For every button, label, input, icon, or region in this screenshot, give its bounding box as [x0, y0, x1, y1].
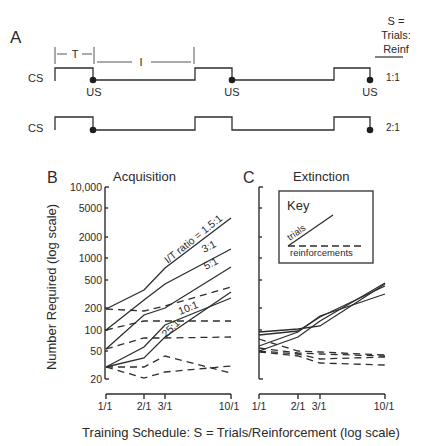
us-dot	[367, 127, 374, 134]
x-axis-title: Training Schedule: S = Trials/Reinforcem…	[82, 425, 400, 440]
y-tick-label: 500	[84, 274, 102, 286]
line-label-10: 10:1	[176, 298, 200, 317]
x-axis-acquisition: 1/1 2/1 3/1 10/1	[98, 394, 240, 412]
key-legend: Key trials reinforcements	[279, 191, 373, 263]
us-label: US	[224, 86, 239, 98]
extinction-reinforcement-lines	[259, 339, 385, 365]
x-tick-label: 2/1	[137, 400, 152, 412]
y-tick-label: 50	[90, 345, 102, 357]
legend-header-reinf: Reinf	[383, 43, 410, 55]
x-tick-label: 1/1	[98, 400, 113, 412]
y-tick-label: 10,000	[70, 181, 102, 193]
extinction-title: Extinction	[293, 169, 349, 184]
panel-b-label: B	[47, 169, 58, 186]
ratio-label: 1:1	[386, 72, 400, 83]
figure: A S = Trials: Reinf T I CS US US US	[0, 0, 447, 446]
x-tick-label: 10/1	[219, 400, 240, 412]
panel-a: A S = Trials: Reinf T I CS US US US	[10, 15, 411, 134]
ratio-label: 2:1	[386, 122, 400, 133]
y-tick-label: 5000	[79, 202, 103, 214]
y-tick-label: 2000	[79, 231, 103, 243]
timeline-row-1-1: CS US US US 1:1	[28, 68, 400, 98]
us-dot	[90, 127, 97, 134]
panel-b: B Acquisition 10,000 5000 2000 1000 500 …	[44, 169, 239, 412]
panel-c: C Extinction 1/1 2/1 3/1 10/1	[243, 169, 394, 412]
acquisition-title: Acquisition	[113, 169, 176, 184]
us-label: US	[362, 86, 377, 98]
x-tick-label: 1/1	[252, 400, 267, 412]
i-label: I	[139, 56, 142, 68]
panel-a-label: A	[10, 28, 22, 47]
us-dot	[90, 77, 97, 84]
y-axis-title: Number Required (log scale)	[44, 204, 59, 370]
timeline-row-2-1: CS 2:1	[28, 117, 400, 134]
y-axis-acquisition: 10,000 5000 2000 1000 500 200 100 50 20	[70, 181, 109, 385]
y-tick-label: 100	[84, 324, 102, 336]
us-dot	[229, 77, 236, 84]
x-tick-label: 10/1	[374, 400, 395, 412]
cs-label: CS	[28, 72, 43, 84]
x-tick-label: 2/1	[291, 400, 306, 412]
y-tick-label: 1000	[79, 252, 103, 264]
x-tick-label: 3/1	[158, 400, 173, 412]
legend-header-s: S =	[388, 15, 405, 27]
legend-header-trials: Trials:	[381, 29, 411, 41]
t-label: T	[72, 48, 79, 60]
cs-label: CS	[28, 122, 43, 134]
timing-brackets: T I	[55, 47, 194, 68]
x-tick-label: 3/1	[312, 400, 327, 412]
extinction-trials-lines	[259, 283, 385, 351]
key-title: Key	[287, 198, 310, 213]
us-dot	[367, 77, 374, 84]
x-axis-extinction: 1/1 2/1 3/1 10/1	[252, 394, 395, 412]
key-reinf-label: reinforcements	[290, 247, 353, 258]
us-label: US	[86, 86, 101, 98]
y-tick-label: 20	[90, 373, 102, 385]
panel-c-label: C	[243, 169, 255, 186]
y-tick-label: 200	[84, 302, 102, 314]
